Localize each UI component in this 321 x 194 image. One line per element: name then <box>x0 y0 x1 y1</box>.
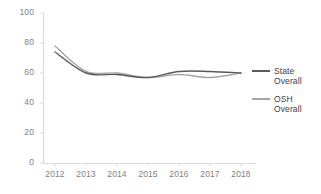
legend-swatch-osh-overall <box>252 98 270 100</box>
y-tick-label: 0 <box>8 158 34 167</box>
x-tick-label: 2013 <box>71 170 101 179</box>
x-tick-label: 2016 <box>164 170 194 179</box>
legend-label-osh-overall: OSHOverall <box>274 94 302 114</box>
x-tick-label: 2014 <box>102 170 132 179</box>
line-chart: 020406080100 201220132014201520162017201… <box>0 0 321 194</box>
legend-swatch-state-overall <box>252 70 270 72</box>
legend-item-state-overall: StateOverall <box>252 66 321 86</box>
y-tick-label: 100 <box>8 8 34 17</box>
chart-legend: StateOverall OSHOverall <box>252 66 321 122</box>
axes <box>44 13 257 164</box>
x-tick-label: 2017 <box>195 170 225 179</box>
x-tick-label: 2018 <box>226 170 256 179</box>
y-tick-label: 80 <box>8 38 34 47</box>
y-tick-label: 40 <box>8 98 34 107</box>
y-tick-label: 60 <box>8 68 34 77</box>
x-tick-label: 2015 <box>133 170 163 179</box>
data-series-group <box>55 46 241 78</box>
series-line-osh-overall <box>55 46 241 78</box>
x-tick-label: 2012 <box>40 170 70 179</box>
legend-label-state-overall: StateOverall <box>274 66 302 86</box>
y-tick-label: 20 <box>8 128 34 137</box>
legend-item-osh-overall: OSHOverall <box>252 94 321 114</box>
series-line-state-overall <box>55 52 241 78</box>
